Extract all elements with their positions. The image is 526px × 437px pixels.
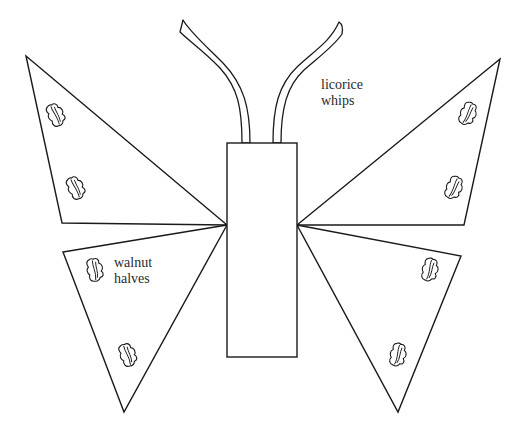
licorice-label: licorice whips (321, 77, 363, 109)
lower-left-wing (63, 225, 227, 412)
left-licorice-whip (180, 20, 250, 143)
butterfly-diagram: licorice whips walnut halves (0, 0, 526, 437)
walnut-label-line-2: halves (114, 271, 152, 287)
butterfly-body (227, 143, 297, 357)
walnut-label-line-1: walnut (114, 255, 152, 271)
lower-right-wing (297, 225, 461, 412)
upper-left-wing (26, 56, 227, 225)
licorice-label-line-1: licorice (321, 77, 363, 93)
butterfly-illustration (0, 0, 526, 437)
walnut-label: walnut halves (114, 255, 152, 287)
licorice-label-line-2: whips (321, 93, 363, 109)
